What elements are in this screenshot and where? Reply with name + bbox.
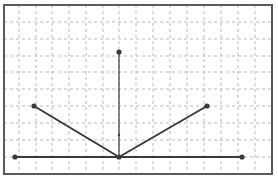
dashed-grid [4, 5, 272, 174]
points [12, 49, 244, 159]
right-arm-segment [119, 106, 207, 157]
baseline-right-point [239, 154, 244, 159]
grid-diagram [0, 0, 278, 183]
diagram-canvas [0, 0, 278, 183]
vertex-point [116, 154, 121, 159]
small-mark-point [118, 134, 120, 136]
left-arm-segment [34, 106, 119, 157]
right-arm-end-point [204, 103, 209, 108]
top-point [116, 49, 121, 54]
baseline-left-point [12, 154, 17, 159]
left-arm-end-point [31, 103, 36, 108]
